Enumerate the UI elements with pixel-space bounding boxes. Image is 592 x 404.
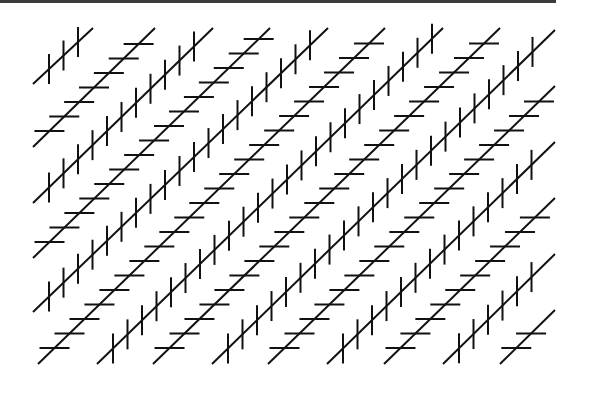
diagonal-line	[153, 28, 500, 364]
diagonal-line	[33, 28, 270, 258]
zollner-illusion-figure	[0, 0, 592, 404]
diagonal-line	[268, 86, 555, 364]
diagonal-line	[97, 28, 443, 364]
diagonal-line	[500, 310, 555, 364]
diagonal-line	[327, 142, 555, 364]
diagonal-line	[38, 28, 385, 364]
